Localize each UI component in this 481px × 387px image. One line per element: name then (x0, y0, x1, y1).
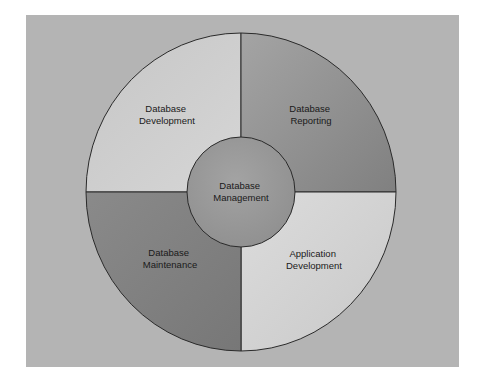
label-database-maintenance: Database Maintenance (143, 247, 197, 270)
label-database-development: Database Development (139, 103, 195, 126)
database-cycle-diagram: Database Development Database Reporting … (0, 0, 481, 387)
label-database-management: Database Management (213, 180, 269, 203)
label-database-reporting: Database Reporting (289, 103, 332, 126)
label-application-development: Application Development (286, 248, 342, 271)
